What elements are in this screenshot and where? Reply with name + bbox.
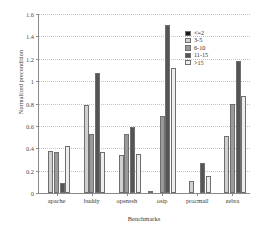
y-axis-tick-label: 1.2	[26, 55, 34, 62]
bar	[236, 61, 241, 193]
bar	[65, 146, 70, 193]
legend-swatch	[185, 31, 191, 36]
bar	[119, 155, 124, 193]
legend-item: 6-10	[185, 45, 231, 52]
legend-item: 3-5	[185, 37, 231, 44]
bar	[224, 136, 229, 193]
legend-label: 11-15	[194, 52, 208, 59]
bar	[206, 176, 211, 193]
x-axis-tick-label: procmail	[186, 197, 209, 204]
bar	[124, 134, 129, 193]
legend-swatch	[185, 45, 191, 50]
legend-swatch	[185, 60, 191, 65]
bar	[100, 152, 105, 193]
x-axis-tick-label: osip	[157, 197, 168, 204]
y-axis-tick	[36, 148, 39, 149]
legend-label: >15	[194, 60, 204, 67]
x-axis-tick-label: apache	[48, 197, 66, 204]
x-axis-tick	[232, 193, 233, 196]
y-axis-tick-label: 0.8	[26, 100, 34, 107]
bar	[95, 73, 100, 193]
legend-item: 11-15	[185, 52, 231, 59]
y-axis-tick	[36, 14, 39, 15]
y-axis-tick	[36, 104, 39, 105]
bar	[171, 68, 176, 193]
bar-group	[148, 14, 175, 193]
y-axis-tick	[36, 171, 39, 172]
x-axis-tick	[92, 193, 93, 196]
y-axis-tick-label: 0.6	[26, 122, 34, 129]
bar-group	[113, 14, 140, 193]
legend-swatch	[185, 53, 191, 58]
chart-legend: <=23-56-1011-15>15	[185, 30, 231, 67]
x-axis-tick	[162, 193, 163, 196]
y-axis-tick-label: 0	[31, 190, 34, 197]
legend-swatch	[185, 38, 191, 43]
bar-group	[78, 14, 105, 193]
x-axis-title: Benchmarks	[38, 215, 250, 222]
y-axis-tick	[36, 59, 39, 60]
bar	[130, 127, 135, 193]
y-axis-title: Normalized precondition	[14, 0, 28, 182]
bar-group	[43, 14, 70, 193]
bar	[84, 105, 89, 193]
y-axis-tick-label: 1.4	[26, 33, 34, 40]
bar	[148, 191, 153, 193]
bar	[54, 152, 59, 193]
bar	[230, 104, 235, 194]
bar	[60, 183, 65, 193]
x-axis-tick	[57, 193, 58, 196]
y-axis-tick	[36, 193, 39, 194]
y-axis-tick-label: 0.2	[26, 167, 34, 174]
y-axis-tick	[36, 126, 39, 127]
bar	[241, 96, 246, 193]
y-axis-tick	[36, 36, 39, 37]
bar	[89, 134, 94, 193]
x-axis-tick-label: buddy	[84, 197, 100, 204]
x-axis-tick-label: zebra	[225, 197, 239, 204]
legend-label: 3-5	[194, 37, 202, 44]
y-axis-tick-label: 0.4	[26, 145, 34, 152]
legend-item: >15	[185, 60, 231, 67]
x-axis-tick-label: openssh	[117, 197, 138, 204]
bar	[136, 154, 141, 193]
y-axis-tick-label: 1	[31, 78, 34, 85]
bar	[189, 181, 194, 193]
y-axis-tick	[36, 81, 39, 82]
bar	[160, 116, 165, 193]
bar	[165, 25, 170, 193]
legend-item: <=2	[185, 30, 231, 37]
x-axis-tick	[127, 193, 128, 196]
bar	[48, 151, 53, 194]
y-axis-tick-label: 1.6	[26, 11, 34, 18]
bar	[200, 163, 205, 193]
x-axis-tick	[197, 193, 198, 196]
bar-chart: Normalized precondition 00.20.40.60.811.…	[0, 0, 265, 245]
